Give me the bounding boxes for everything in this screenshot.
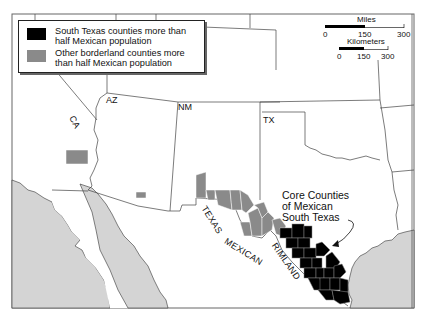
county-core — [316, 268, 324, 278]
county-core — [292, 224, 304, 238]
callout-line-3: South Texas — [282, 212, 349, 223]
legend-swatch-black — [27, 28, 46, 40]
county-core — [300, 258, 312, 268]
county-core — [286, 238, 298, 248]
scale-miles-tick-300: 300 — [397, 30, 410, 39]
county-core — [292, 248, 304, 258]
county-core — [280, 228, 292, 238]
county-core — [324, 268, 334, 278]
county-dona-ana-nm — [196, 172, 206, 198]
state-label-nm: NM — [178, 102, 192, 112]
scale-miles-label: Miles — [357, 15, 376, 24]
scale-km-label: Kilometers — [347, 37, 385, 46]
county-core — [304, 248, 316, 258]
km-bar-filled — [339, 47, 364, 50]
scale-km-tick-300: 300 — [381, 52, 394, 61]
state-label-tx: TX — [263, 115, 275, 125]
state-label-az: AZ — [106, 95, 118, 105]
legend-label: South Texas counties more than half Mexi… — [55, 26, 203, 46]
county-core — [330, 278, 340, 290]
legend-item-borderland: Other borderland counties more than half… — [27, 48, 203, 68]
county-core — [312, 258, 322, 268]
callout-core-counties: Core Counties of Mexican South Texas — [282, 190, 349, 223]
legend-item-core: South Texas counties more than half Mexi… — [27, 26, 203, 46]
county-core — [304, 226, 312, 238]
county-santa-cruz-az — [136, 192, 146, 198]
scale-miles-tick-0: 0 — [323, 30, 327, 39]
county-imperial-ca — [66, 150, 88, 164]
scale-km-tick-0: 0 — [337, 52, 341, 61]
county-core — [340, 278, 348, 292]
county-core — [320, 278, 330, 290]
county-core — [298, 238, 310, 248]
legend-swatch-gray — [27, 50, 46, 62]
scale-km-tick-150: 150 — [357, 52, 370, 61]
legend: South Texas counties more than half Mexi… — [18, 20, 205, 73]
legend-label: Other borderland counties more than half… — [55, 48, 203, 68]
miles-bar-filled — [325, 25, 365, 28]
county-core — [304, 268, 316, 278]
